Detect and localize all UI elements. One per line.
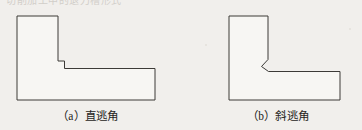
figure-a-caption: （a）直逃角: [57, 107, 118, 123]
figure-panel: 切削加工中的退刀槽形式 （a）直逃角 （b）斜逃角: [0, 0, 362, 130]
figure-a-drawing: [17, 16, 155, 100]
figure-b-caption: （b）斜逃角: [247, 107, 309, 123]
paper-speck: [349, 28, 351, 30]
paper-speck: [96, 120, 98, 122]
figure-a-outline-path: [17, 16, 155, 100]
figure-b-outline-path: [229, 16, 340, 100]
figure-b-drawing: [229, 16, 340, 100]
paper-speck: [205, 44, 207, 46]
